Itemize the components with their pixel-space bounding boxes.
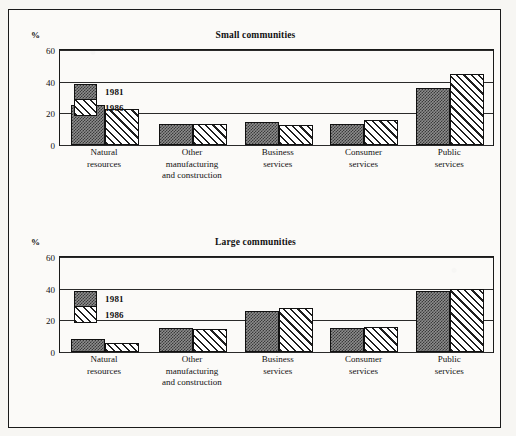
category-label: Other manufacturing and construction <box>149 147 235 182</box>
bar-1986[interactable] <box>450 74 484 145</box>
legend-item-1981[interactable]: 1981 <box>74 84 160 100</box>
category-label: Consumer services <box>321 147 407 182</box>
bar-1986[interactable] <box>279 125 313 145</box>
bar-1986[interactable] <box>364 120 398 145</box>
category-line: Public <box>406 147 492 159</box>
category-line: Other <box>149 147 235 159</box>
category-line: resources <box>59 159 149 171</box>
bar-group <box>150 257 236 352</box>
category-line: Business <box>235 354 321 366</box>
y-tick-label: 40 <box>46 285 55 295</box>
category-label: Business services <box>235 354 321 389</box>
bar-1986[interactable] <box>279 308 313 352</box>
bar-1981[interactable] <box>416 291 450 352</box>
legend: 1981 1986 <box>74 291 160 323</box>
gridline-0: 0 <box>60 352 493 353</box>
page-canvas: % Small communities 60 40 20 0 <box>0 0 516 436</box>
category-label: Other manufacturing and construction <box>149 354 235 389</box>
category-line: Consumer <box>321 147 407 159</box>
legend-swatch-icon <box>74 100 97 116</box>
category-line: Business <box>235 147 321 159</box>
bar-1986[interactable] <box>193 124 227 145</box>
legend-label: 1986 <box>105 310 124 320</box>
x-axis-category-labels: Natural resources Other manufacturing an… <box>59 354 492 389</box>
category-line: services <box>406 366 492 378</box>
bar-group <box>322 257 408 352</box>
category-line: Natural <box>59 354 149 366</box>
category-line: services <box>321 159 407 171</box>
bar-1981[interactable] <box>159 328 193 352</box>
legend-label: 1986 <box>105 103 124 113</box>
gridline-0: 0 <box>60 145 493 146</box>
legend-item-1981[interactable]: 1981 <box>74 291 160 307</box>
bar-1986[interactable] <box>364 327 398 352</box>
legend-item-1986[interactable]: 1986 <box>74 100 160 116</box>
legend-label: 1981 <box>105 294 124 304</box>
bar-1981[interactable] <box>245 122 279 145</box>
legend-swatch-icon <box>74 307 97 323</box>
y-tick-label: 60 <box>46 253 55 263</box>
category-label: Public services <box>406 147 492 182</box>
bar-group <box>322 50 408 145</box>
bar-group <box>407 50 493 145</box>
category-line: resources <box>59 366 149 378</box>
bar-1986[interactable] <box>193 329 227 352</box>
bar-1981[interactable] <box>330 124 364 145</box>
chart-small-communities: % Small communities 60 40 20 0 <box>9 10 502 222</box>
category-line: Other <box>149 354 235 366</box>
category-line: Public <box>406 354 492 366</box>
bar-group <box>150 50 236 145</box>
legend: 1981 1986 <box>74 84 160 116</box>
bar-1986[interactable] <box>450 289 484 352</box>
y-tick-label: 60 <box>46 46 55 56</box>
y-tick-label: 20 <box>46 109 55 119</box>
bar-group <box>236 50 322 145</box>
category-line: services <box>321 366 407 378</box>
category-line: and construction <box>149 170 235 182</box>
y-tick-label: 0 <box>51 141 56 151</box>
bar-1981[interactable] <box>416 88 450 145</box>
category-line: Consumer <box>321 354 407 366</box>
chart-title: Small communities <box>9 30 502 40</box>
y-tick-label: 40 <box>46 78 55 88</box>
legend-swatch-icon <box>74 84 97 100</box>
legend-label: 1981 <box>105 87 124 97</box>
bar-group <box>236 257 322 352</box>
category-label: Natural resources <box>59 147 149 182</box>
bar-1981[interactable] <box>330 328 364 352</box>
bar-1981[interactable] <box>71 339 105 352</box>
category-line: Natural <box>59 147 149 159</box>
chart-title: Large communities <box>9 237 502 247</box>
chart-large-communities: % Large communities 60 40 20 0 <box>9 217 502 429</box>
bar-1986[interactable] <box>105 343 139 353</box>
category-line: and construction <box>149 377 235 389</box>
y-tick-label: 20 <box>46 316 55 326</box>
bar-group <box>407 257 493 352</box>
category-label: Natural resources <box>59 354 149 389</box>
legend-item-1986[interactable]: 1986 <box>74 307 160 323</box>
plot-area: 60 40 20 0 <box>59 256 494 353</box>
category-label: Public services <box>406 354 492 389</box>
category-line: services <box>235 159 321 171</box>
category-label: Consumer services <box>321 354 407 389</box>
figure-border: % Small communities 60 40 20 0 <box>8 9 501 428</box>
category-line: services <box>406 159 492 171</box>
bar-1981[interactable] <box>159 124 193 145</box>
category-line: services <box>235 366 321 378</box>
category-line: manufacturing <box>149 366 235 378</box>
category-label: Business services <box>235 147 321 182</box>
y-tick-label: 0 <box>51 348 56 358</box>
legend-swatch-icon <box>74 291 97 307</box>
plot-area: 60 40 20 0 <box>59 49 494 146</box>
x-axis-category-labels: Natural resources Other manufacturing an… <box>59 147 492 182</box>
category-line: manufacturing <box>149 159 235 171</box>
bar-1981[interactable] <box>245 311 279 352</box>
